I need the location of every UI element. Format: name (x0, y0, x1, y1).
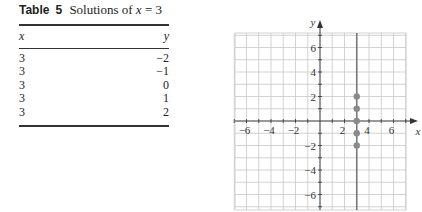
data-point (354, 118, 360, 124)
y-tick-label: −2 (304, 140, 316, 152)
x-tick-label: −6 (239, 124, 251, 136)
y-tick-label: −4 (304, 164, 316, 176)
x-axis-label: x (415, 125, 421, 137)
data-point (354, 106, 360, 112)
x-tick-label: 4 (364, 124, 370, 136)
data-point (354, 142, 360, 148)
y-tick-label: −6 (304, 189, 316, 201)
y-axis-arrow-icon (317, 20, 323, 28)
x-axis-arrow-icon (410, 118, 418, 124)
y-tick-label: 6 (311, 42, 317, 54)
x-tick-label: −4 (263, 124, 275, 136)
x-tick-label: 2 (340, 124, 346, 136)
x-tick-label: −2 (288, 124, 300, 136)
coordinate-plane: −6−4−2246642−2−4−6xy (0, 0, 422, 212)
data-point (354, 130, 360, 136)
data-point (354, 93, 360, 99)
y-tick-label: 4 (311, 66, 317, 78)
y-axis-label: y (310, 16, 316, 28)
x-tick-label: 6 (389, 124, 395, 136)
y-tick-label: 2 (311, 91, 317, 103)
